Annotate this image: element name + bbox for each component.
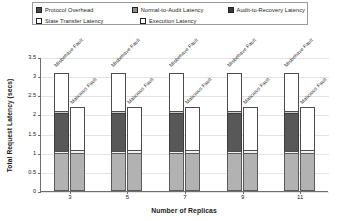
bar-series-label: Malicious Fault xyxy=(69,77,97,105)
bar-series-label: Misbehave Fault xyxy=(111,38,142,69)
legend-label-normal-to-audit-latency: Normal-to-Audit Latency xyxy=(141,7,204,13)
x-axis-tick-label: 5 xyxy=(126,194,129,200)
bar-segment-exec xyxy=(300,153,315,191)
stacked-bar[interactable] xyxy=(227,74,242,192)
stacked-bar[interactable] xyxy=(300,108,315,191)
bar-segment-protocol xyxy=(111,113,126,152)
stacked-bar[interactable] xyxy=(169,74,184,192)
bar-group: Misbehave FaultMalicious Fault11 xyxy=(271,58,329,191)
legend-label-audit-to-recovery-latency: Audit-to-Recovery Latency xyxy=(237,7,305,13)
stacked-bar[interactable] xyxy=(111,74,126,192)
bar-segment-state xyxy=(70,107,85,151)
bar-segment-state xyxy=(300,107,315,151)
protocol-overhead-swatch-icon xyxy=(36,7,42,13)
bar-segment-exec xyxy=(111,153,126,191)
bar-segment-state xyxy=(227,73,242,113)
chart-container: Protocol Overhead Normal-to-Audit Latenc… xyxy=(0,0,340,221)
stacked-bar[interactable] xyxy=(243,108,258,191)
y-axis-tick-label: 0 xyxy=(33,189,36,195)
legend-item-state-transfer-latency: State Transfer Latency xyxy=(36,18,140,24)
x-axis-title: Number of Replicas xyxy=(40,207,328,214)
bar-segment-exec xyxy=(54,153,69,191)
y-axis-tick-label: 3.5 xyxy=(28,55,36,61)
bar-segment-exec xyxy=(169,153,184,191)
audit-to-recovery-swatch-icon xyxy=(228,7,234,13)
bar-group: Misbehave FaultMalicious Fault9 xyxy=(214,58,272,191)
legend-item-normal-to-audit-latency: Normal-to-Audit Latency xyxy=(132,7,228,13)
bar-segment-state xyxy=(54,73,69,113)
y-axis-tick xyxy=(38,192,41,193)
bar-segment-protocol xyxy=(54,113,69,152)
y-axis-tick-label: 0.5 xyxy=(28,170,36,176)
bar-segment-state xyxy=(284,73,299,112)
bar-segment-protocol xyxy=(169,113,184,152)
bar-segment-exec xyxy=(284,153,299,191)
bar-segment-state xyxy=(127,107,142,151)
y-axis-tick-label: 1.5 xyxy=(28,132,36,138)
legend-label-protocol-overhead: Protocol Overhead xyxy=(45,7,93,13)
bar-segment-state xyxy=(169,73,184,113)
bar-series-label: Malicious Fault xyxy=(184,77,212,105)
x-axis-tick-label: 7 xyxy=(183,194,186,200)
stacked-bar[interactable] xyxy=(284,74,299,192)
execution-latency-swatch-icon xyxy=(140,18,146,24)
bar-segment-exec xyxy=(243,153,258,191)
legend-label-execution-latency: Execution Latency xyxy=(149,18,196,24)
bar-segment-protocol xyxy=(227,113,242,152)
legend-item-audit-to-recovery-latency: Audit-to-Recovery Latency xyxy=(228,7,305,13)
legend-label-state-transfer-latency: State Transfer Latency xyxy=(45,18,103,24)
bar-segment-exec xyxy=(70,153,85,191)
bar-segment-state xyxy=(243,107,258,151)
bar-series-label: Misbehave Fault xyxy=(226,38,257,69)
normal-to-audit-swatch-icon xyxy=(132,7,138,13)
plot-area: 00.511.522.533.5Misbehave FaultMalicious… xyxy=(40,58,328,192)
legend-item-execution-latency: Execution Latency xyxy=(140,18,244,24)
bar-segment-state xyxy=(185,107,200,151)
stacked-bar[interactable] xyxy=(54,74,69,192)
bar-segment-state xyxy=(111,73,126,113)
chart-legend: Protocol Overhead Normal-to-Audit Latenc… xyxy=(32,2,308,25)
y-axis-title-text: Total Request Latency (secs) xyxy=(7,78,14,172)
bar-group: Misbehave FaultMalicious Fault5 xyxy=(99,58,157,191)
legend-row-1: Protocol Overhead Normal-to-Audit Latenc… xyxy=(36,5,305,15)
bar-group: Misbehave FaultMalicious Fault3 xyxy=(41,58,99,191)
bar-segment-exec xyxy=(185,153,200,191)
stacked-bar[interactable] xyxy=(70,108,85,191)
x-axis-tick-label: 3 xyxy=(68,194,71,200)
state-transfer-swatch-icon xyxy=(36,18,42,24)
bar-segment-protocol xyxy=(284,113,299,153)
bar-segment-exec xyxy=(127,153,142,191)
bar-series-label: Malicious Fault xyxy=(242,77,270,105)
bar-series-label: Malicious Fault xyxy=(127,77,155,105)
legend-row-2: State Transfer Latency Execution Latency xyxy=(36,16,305,26)
stacked-bar[interactable] xyxy=(127,108,142,191)
y-axis-title: Total Request Latency (secs) xyxy=(4,58,16,192)
stacked-bar[interactable] xyxy=(185,108,200,191)
bar-series-label: Malicious Fault xyxy=(300,77,328,105)
bar-series-label: Misbehave Fault xyxy=(284,38,315,69)
y-axis-tick-label: 1 xyxy=(33,151,36,157)
y-axis-tick-label: 2.5 xyxy=(28,93,36,99)
x-axis-tick-label: 11 xyxy=(297,194,303,200)
bar-series-label: Misbehave Fault xyxy=(168,38,199,69)
bar-group: Misbehave FaultMalicious Fault7 xyxy=(156,58,214,191)
y-axis-tick-label: 3 xyxy=(33,74,36,80)
bar-segment-exec xyxy=(227,153,242,191)
bar-series-label: Misbehave Fault xyxy=(53,38,84,69)
y-axis-tick-label: 2 xyxy=(33,113,36,119)
legend-item-protocol-overhead: Protocol Overhead xyxy=(36,7,132,13)
x-axis-tick-label: 9 xyxy=(241,194,244,200)
